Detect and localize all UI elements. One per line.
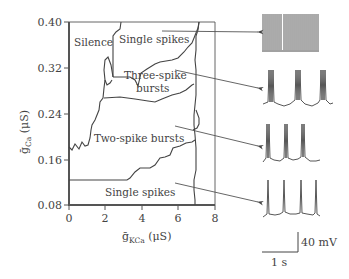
y-tick-labels: 0.40 0.32 0.24 0.16 0.08	[38, 16, 63, 212]
boundary-silence-single	[113, 22, 121, 77]
x-tick-label: 6	[175, 212, 182, 225]
y-tick-label: 0.40	[38, 16, 63, 29]
region-boundaries	[69, 22, 199, 205]
plot-frame	[68, 22, 215, 206]
scale-voltage-label: 40 mV	[301, 236, 338, 249]
scale-time-label: 1 s	[271, 256, 287, 269]
x-tick-label: 0	[66, 212, 73, 225]
region-single-top-label: Single spikes	[119, 33, 189, 45]
arrow-icon	[162, 31, 258, 32]
y-axis-label: ḡCa (μS)	[18, 110, 33, 154]
x-axis-label: ḡKCa (μS)	[122, 230, 171, 245]
arrow-icon	[175, 70, 258, 88]
y-tick-label: 0.16	[38, 154, 63, 167]
trace-two-spike-bursts	[263, 124, 320, 162]
x-tick-label: 8	[212, 212, 219, 225]
region-two-label: Two-spike bursts	[94, 132, 184, 144]
arrows	[162, 31, 258, 202]
trace-three-spike-bursts	[263, 70, 333, 106]
y-tick-label: 0.08	[38, 199, 63, 212]
region-single-bottom-label: Single spikes	[105, 186, 175, 198]
region-silence-label: Silence	[74, 36, 113, 48]
x-tick-label: 4	[139, 212, 146, 225]
boundary-two-single	[69, 140, 195, 180]
scale-bar	[262, 232, 298, 252]
region-three-label-2: bursts	[136, 82, 170, 94]
x-tick-label: 2	[102, 212, 109, 225]
x-tick-labels: 0 2 4 6 8	[66, 212, 219, 225]
trace-single-spikes	[263, 180, 320, 217]
y-tick-label: 0.32	[38, 62, 63, 75]
region-labels: Silence Single spikes Three-spike bursts…	[74, 33, 189, 198]
arrow-icon	[175, 183, 258, 202]
boundary-right-vertical	[194, 22, 199, 205]
y-tick-label: 0.24	[38, 108, 63, 121]
trace-tonic-spiking	[262, 14, 319, 51]
phase-diagram-figure: 0.40 0.32 0.24 0.16 0.08 0 2 4 6 8 ḡKCa…	[0, 0, 349, 279]
